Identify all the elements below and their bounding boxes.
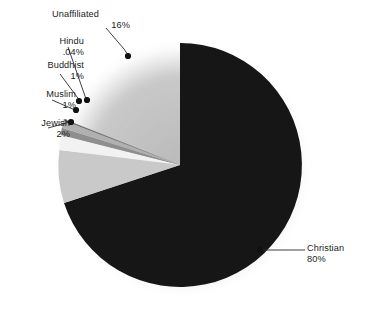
pie-label-muslim-value: 1% (10, 100, 76, 111)
leader-line-unaffiliated (106, 28, 128, 55)
pie-label-unaffiliated: Unaffiliated 16% (52, 9, 130, 31)
pie-label-hindu-name: Hindu (22, 36, 84, 47)
pie-chart-figure: Unaffiliated 16% Hindu .04% Buddhist 1% … (0, 0, 365, 317)
pie-label-muslim: Muslim 1% (10, 89, 76, 111)
leader-dot-unaffiliated (125, 53, 131, 59)
leader-dot-christian (257, 247, 263, 253)
pie-label-christian-name: Christian (307, 243, 363, 254)
pie-label-muslim-name: Muslim (10, 89, 76, 100)
pie-label-hindu-value: .04% (22, 47, 84, 58)
pie-label-jewish-name: Jewish (6, 118, 70, 129)
pie-label-christian: Christian 80% (307, 243, 363, 265)
pie-label-buddhist-value: 1% (8, 71, 84, 82)
leader-dot-buddhist (76, 98, 82, 104)
pie-label-christian-value: 80% (307, 254, 363, 265)
pie-label-jewish-value: 2% (6, 129, 70, 140)
pie-label-unaffiliated-name: Unaffiliated (52, 9, 130, 20)
leader-dot-hindu (84, 97, 90, 103)
pie-label-jewish: Jewish 2% (6, 118, 70, 140)
pie-label-unaffiliated-value: 16% (52, 20, 130, 31)
pie-label-hindu: Hindu .04% (22, 36, 84, 58)
pie-label-buddhist: Buddhist 1% (8, 60, 84, 82)
pie-label-buddhist-name: Buddhist (8, 60, 84, 71)
